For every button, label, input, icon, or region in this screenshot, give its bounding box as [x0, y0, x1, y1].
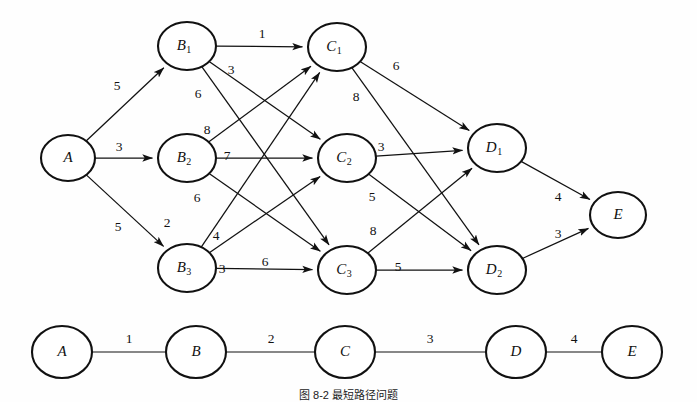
- edge-c2-to-d1: [376, 150, 463, 156]
- node-c2[interactable]: C2: [318, 134, 376, 182]
- node-label-c: C: [340, 343, 351, 359]
- edge-weight-b1-c2: 3: [228, 62, 235, 77]
- edge-weight-b1-c1: 1: [259, 26, 266, 41]
- node-e[interactable]: E: [602, 326, 662, 378]
- edge-b2-to-c1: [209, 66, 311, 142]
- node-b1[interactable]: B1: [158, 22, 216, 70]
- edge-weight-b2-c2: 7: [224, 148, 231, 163]
- node-c1[interactable]: C1: [308, 23, 366, 71]
- figure-caption: 图 8-2 最短路径问题: [0, 388, 697, 402]
- edge-a-to-b3: [86, 175, 163, 246]
- edge-b3-to-c2: [209, 176, 320, 252]
- node-e[interactable]: E: [590, 192, 646, 238]
- edge-weight-c3-d1: 8: [370, 223, 377, 238]
- node-b2[interactable]: B2: [158, 134, 216, 182]
- figure-root: AB1B2B3C1C2C3D1D2E 535136876243668358543…: [0, 0, 697, 402]
- node-label-e: E: [612, 206, 622, 222]
- edge-weight-c1-d1: 6: [393, 58, 400, 73]
- network-diagram-canvas: AB1B2B3C1C2C3D1D2E 535136876243668358543…: [0, 0, 697, 402]
- node-c3[interactable]: C3: [318, 246, 376, 294]
- edge-weight-a-b1: 5: [114, 78, 121, 93]
- edge-weight-b3-c3-alt: 6: [262, 254, 269, 269]
- edge-c1-to-d1: [360, 62, 469, 131]
- edge-weight-b2-c1: 8: [204, 122, 211, 137]
- edge-weight-b3-c3: 3: [219, 261, 226, 276]
- edge-b1-to-c1: [216, 46, 303, 47]
- node-label-a: A: [56, 343, 67, 359]
- edge-weight-d2-e: 3: [555, 226, 562, 241]
- edge-weight-b3-c2: 4: [213, 228, 220, 243]
- chain-weight-b-c: 2: [268, 331, 275, 346]
- node-label-b: B: [191, 343, 200, 359]
- edge-weight-c2-d1: 3: [378, 139, 385, 154]
- node-label-d: D: [510, 343, 522, 359]
- node-c[interactable]: C: [315, 326, 375, 378]
- node-d2[interactable]: D2: [468, 246, 526, 294]
- chain-weight-a-b: 1: [126, 331, 133, 346]
- chain-weight-c-d: 3: [427, 331, 434, 346]
- chain-weight-d-e: 4: [571, 331, 578, 346]
- edge-weight-b1-c3: 6: [195, 86, 202, 101]
- node-a[interactable]: A: [41, 135, 95, 181]
- edge-weight-a-b2: 3: [116, 139, 123, 154]
- edge-weight-c2-d2: 5: [369, 189, 376, 204]
- node-b[interactable]: B: [166, 326, 226, 378]
- edge-weight-a-b3: 5: [115, 219, 122, 234]
- edge-b3-to-c1: [201, 72, 320, 247]
- edge-a-to-b1: [86, 68, 164, 141]
- node-b3[interactable]: B3: [158, 244, 216, 292]
- node-label-a: A: [62, 149, 73, 165]
- edge-weight-b3-c1: 2: [164, 215, 171, 230]
- node-label-e: E: [626, 343, 636, 359]
- edge-weight-d1-e: 4: [555, 189, 562, 204]
- edge-weight-b2-c3: 6: [194, 190, 201, 205]
- node-a[interactable]: A: [32, 326, 92, 378]
- edge-weight-c1-d2: 8: [353, 89, 360, 104]
- node-d[interactable]: D: [486, 326, 546, 378]
- node-d1[interactable]: D1: [468, 124, 526, 172]
- edge-weight-c3-d2: 5: [395, 259, 402, 274]
- edge-b2-to-c3: [209, 173, 320, 251]
